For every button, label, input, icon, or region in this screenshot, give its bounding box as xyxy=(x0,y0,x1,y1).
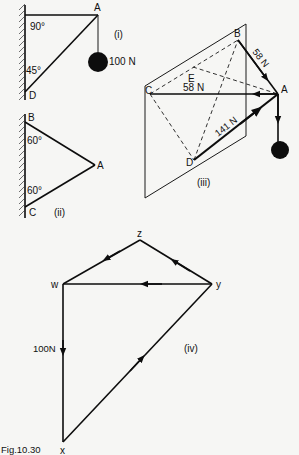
panel-tag-i: (i) xyxy=(114,29,123,40)
label-a-ii: A xyxy=(97,160,104,171)
label-c: C xyxy=(29,207,36,218)
force-label-ab: 58 N xyxy=(250,46,271,69)
weight-ball-iii xyxy=(271,141,289,159)
dashed-ea xyxy=(193,67,278,94)
side-zw-arrow xyxy=(106,251,120,259)
label-w: w xyxy=(50,279,59,290)
side-zw xyxy=(63,240,140,284)
label-d: D xyxy=(29,90,36,101)
figure-10-30: A 90° (i) 100 N 45° D B 60° A 60 xyxy=(0,0,299,455)
angle-90: 90° xyxy=(30,21,45,32)
label-b-iii: B xyxy=(234,28,241,39)
side-xy-arrow xyxy=(130,358,142,371)
load-label-i: 100 N xyxy=(109,56,136,67)
label-y: y xyxy=(216,279,221,290)
panel-iii: B 58 N E C 58 N A 141 N D (iii) xyxy=(145,24,289,198)
label-x: x xyxy=(60,445,65,455)
wall-i xyxy=(19,4,25,100)
label-z: z xyxy=(137,228,142,239)
label-a: A xyxy=(94,2,101,13)
side-yz-arrow xyxy=(174,261,190,271)
force-da xyxy=(194,94,278,160)
figure-caption: Fig.10.30 xyxy=(1,444,41,455)
label-a-iii: A xyxy=(281,84,288,95)
label-d-iii: D xyxy=(186,157,193,168)
panel-tag-iii: (iii) xyxy=(197,177,210,188)
panel-i: A 90° (i) 100 N 45° D xyxy=(19,2,136,101)
label-c-iii: C xyxy=(145,85,152,96)
panel-iv: z w y 100N (iv) x xyxy=(33,228,221,455)
panel-ii: B 60° A 60° C (ii) xyxy=(19,112,104,218)
weight-ball-i xyxy=(88,52,108,72)
angle-60-top: 60° xyxy=(27,135,42,146)
label-b: B xyxy=(28,112,35,123)
angle-60-bottom: 60° xyxy=(27,185,42,196)
panel-tag-ii: (ii) xyxy=(54,207,65,218)
dashed-cd xyxy=(150,94,194,160)
force-da-arrow xyxy=(240,110,258,124)
angle-45: 45° xyxy=(26,65,41,76)
plane-parallelogram xyxy=(145,24,246,198)
load-label-iv: 100N xyxy=(33,343,56,354)
wall-ii xyxy=(19,114,25,218)
panel-tag-iv: (iv) xyxy=(184,343,198,354)
force-label-ac: 58 N xyxy=(183,82,204,93)
